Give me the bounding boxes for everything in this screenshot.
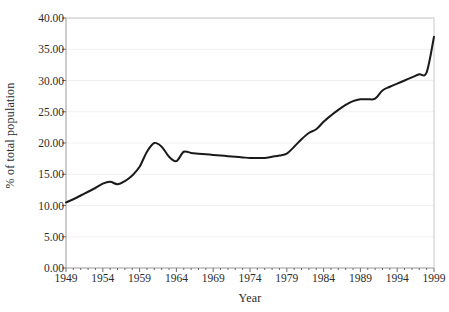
x-axis-tick-label: 1999 (423, 272, 446, 284)
x-axis-tick-label: 1954 (91, 272, 114, 284)
x-axis-tick-label: 1964 (165, 272, 188, 284)
gridlines (66, 18, 434, 237)
x-axis-tick-label: 1959 (128, 272, 151, 284)
x-axis-tick-label: 1969 (202, 272, 225, 284)
y-axis-tick-label: 30.00 (22, 75, 64, 87)
data-line-series (66, 37, 434, 203)
axis-tick-marks (62, 18, 434, 272)
x-axis-title-container: Year (66, 288, 434, 306)
y-axis-tick-label: 25.00 (22, 106, 64, 118)
x-axis-tick-label: 1989 (349, 272, 372, 284)
y-axis-title: % of total population (4, 82, 19, 188)
x-axis-tick-label: 1974 (239, 272, 262, 284)
x-axis-title: Year (239, 291, 262, 305)
plot-area (0, 0, 449, 312)
y-axis-tick-label: 10.00 (22, 200, 64, 212)
y-axis-tick-label: 5.00 (22, 231, 64, 243)
x-axis-tick-label: 1994 (386, 272, 409, 284)
y-axis-tick-label: 20.00 (22, 137, 64, 149)
x-axis-tick-label: 1979 (275, 272, 298, 284)
x-axis-tick-label: 1949 (55, 272, 78, 284)
y-axis-tick-label: 35.00 (22, 43, 64, 55)
x-axis-tick-label: 1984 (312, 272, 335, 284)
line-chart: % of total population 40.0035.0030.0025.… (0, 0, 449, 312)
y-axis-tick-label: 15.00 (22, 168, 64, 180)
y-axis-tick-label: 40.00 (22, 12, 64, 24)
y-axis-tick-labels: 40.0035.0030.0025.0020.0015.0010.005.000… (18, 0, 64, 312)
